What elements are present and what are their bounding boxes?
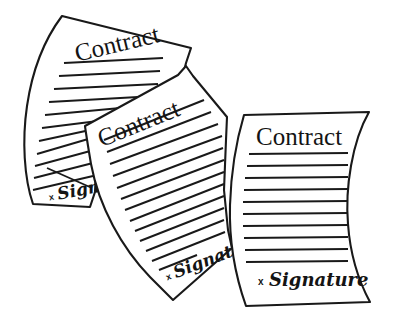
document-right-signature-group: x Signature bbox=[258, 269, 369, 290]
document-right-title: Contract bbox=[256, 123, 342, 150]
document-right-signature-label: Signature bbox=[269, 269, 369, 290]
document-right-signature-mark: x bbox=[258, 276, 264, 287]
illustration-canvas: Contract x Signature Contract bbox=[0, 0, 396, 330]
contract-documents-illustration: Contract x Signature Contract bbox=[0, 0, 396, 330]
